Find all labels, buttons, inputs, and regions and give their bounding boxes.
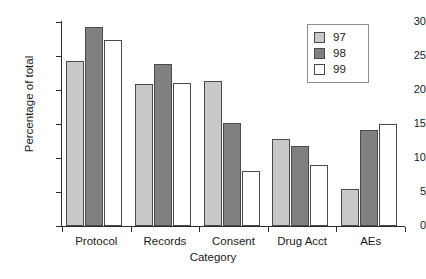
bar-aes-98 [360,130,378,226]
x-tick-mark [131,227,132,232]
bar-protocol-98 [85,27,103,226]
x-tick-mark [62,227,63,232]
bar-records-98 [154,64,172,226]
bar-aes-97 [341,189,359,226]
chart-title-clipped [0,0,426,7]
chart-legend: 979899 [307,24,369,83]
x-tick-label: Drug Acct [268,235,337,248]
x-tick-mark [268,227,269,232]
x-axis-line [61,226,405,227]
y-tick-mark [56,226,61,227]
bar-consent-99 [242,171,260,226]
legend-item-98[interactable]: 98 [314,45,362,61]
x-tick-mark [336,227,337,232]
bar-records-97 [135,84,153,226]
x-tick-label: AEs [336,235,405,248]
legend-label: 98 [333,47,346,59]
legend-label: 99 [333,63,346,75]
y-tick-mark [56,90,61,91]
bar-consent-97 [204,81,222,226]
legend-label: 97 [333,31,346,43]
legend-item-97[interactable]: 97 [314,29,362,45]
legend-swatch-icon [314,48,325,59]
x-tick-mark [405,227,406,232]
y-tick-mark [56,124,61,125]
legend-item-99[interactable]: 99 [314,61,362,77]
bar-consent-98 [223,123,241,226]
bar-drug-acct-98 [291,146,309,226]
x-axis-title: Category [0,251,426,263]
y-tick-mark [56,192,61,193]
x-tick-label: Consent [199,235,268,248]
bar-aes-99 [379,124,397,226]
bar-drug-acct-97 [272,139,290,226]
legend-swatch-icon [314,32,325,43]
x-tick-label: Protocol [62,235,131,248]
bar-drug-acct-99 [310,165,328,226]
y-axis-title: Percentage of total [23,34,35,174]
legend-swatch-icon [314,64,325,75]
y-tick-mark [56,56,61,57]
y-tick-mark [56,22,61,23]
bar-protocol-97 [66,61,84,226]
bar-records-99 [173,83,191,226]
bar-protocol-99 [104,40,122,226]
x-tick-mark [199,227,200,232]
y-tick-mark [56,158,61,159]
x-tick-label: Records [131,235,200,248]
